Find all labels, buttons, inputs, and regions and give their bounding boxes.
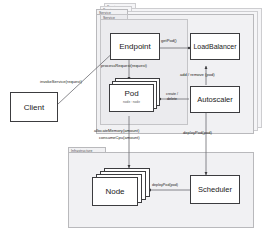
component-label-scheduler: Scheduler (198, 185, 232, 194)
edge-label-process-request: processRequest(request) (101, 63, 147, 68)
edge-label-invoke-service: invokeService(request) (40, 79, 82, 84)
component-box-pod[interactable]: Pod node : node (109, 84, 154, 112)
component-box-endpoint[interactable]: Endpoint (110, 33, 160, 60)
component-label-autoscaler: Autoscaler (197, 95, 232, 104)
edge-label-allocate-memory: allocateMemory(amount) (94, 128, 139, 133)
component-box-node[interactable]: Node (92, 177, 138, 206)
edge-label-get-pod: getPod() (161, 38, 177, 43)
component-box-autoscaler[interactable]: Autoscaler (190, 86, 240, 113)
component-diagram-canvas: Service Service Service Service Infrastr… (0, 0, 266, 240)
component-box-client[interactable]: Client (10, 92, 58, 122)
component-label-pod: Pod (124, 89, 138, 98)
component-box-scheduler[interactable]: Scheduler (190, 175, 240, 204)
component-box-loadbalancer[interactable]: LoadBalancer (190, 33, 240, 60)
component-attribute-pod: node : node (123, 100, 140, 104)
component-label-client: Client (24, 103, 44, 112)
component-label-node: Node (105, 187, 124, 196)
edge-label-add-remove-pod: add / remove (pod) (180, 72, 215, 77)
component-label-loadbalancer: LoadBalancer (193, 42, 236, 51)
edge-label-create-delete: create / delete (161, 92, 183, 101)
edge-label-consume-cpu: consumeCpu(amount) (99, 135, 140, 140)
edge-label-deploy-pod-scheduler: deployPod(pod) (152, 183, 178, 188)
component-label-endpoint: Endpoint (119, 42, 151, 51)
edge-label-deploy-pod-autoscaler: deployPod(pod) (183, 130, 212, 135)
